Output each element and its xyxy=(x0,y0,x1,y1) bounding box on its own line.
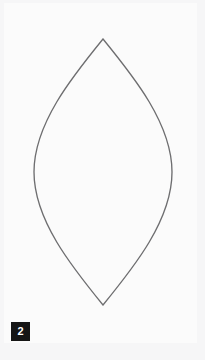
figure-canvas: 2 xyxy=(0,0,205,360)
figure-number-badge: 2 xyxy=(11,322,30,341)
vesica-piscis-outline-path xyxy=(34,39,172,305)
lens-shape-svg xyxy=(0,0,205,360)
figure-drawing-layer xyxy=(0,0,205,360)
figure-number-label: 2 xyxy=(17,326,23,337)
